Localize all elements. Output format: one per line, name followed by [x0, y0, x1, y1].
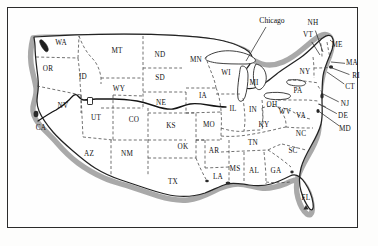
lake-erie — [264, 92, 290, 99]
state-label-or: OR — [43, 66, 53, 73]
state-label-nm: NM — [121, 151, 133, 158]
state-label-fl: FL — [302, 195, 311, 202]
state-callout-label-ma: MA — [346, 60, 358, 67]
state-callout-label-de: DE — [338, 113, 348, 120]
state-callout-label-md: MD — [339, 126, 351, 133]
state-label-wa: WA — [55, 40, 67, 47]
state-label-ok: OK — [178, 144, 189, 151]
state-label-al: AL — [249, 168, 259, 175]
state-label-tx: TX — [168, 179, 178, 186]
state-label-ga: GA — [271, 168, 282, 175]
state-label-wy: WY — [113, 86, 125, 93]
state-label-nd: ND — [155, 52, 166, 59]
state-label-ky: KY — [259, 122, 270, 129]
leader-line-chicago — [246, 27, 266, 61]
state-callout-label-me: ME — [331, 42, 342, 49]
state-label-wi: WI — [221, 70, 231, 77]
state-label-mt: MT — [111, 48, 122, 55]
state-callout-label-vt: VT — [303, 32, 313, 39]
state-label-nc: NC — [296, 131, 306, 138]
state-label-sc: SC — [288, 148, 297, 155]
state-label-mi: MI — [249, 80, 258, 87]
map-geometry — [0, 0, 378, 246]
state-label-pa: PA — [294, 88, 303, 95]
state-label-ca: CA — [36, 125, 46, 132]
national-outline — [31, 34, 334, 215]
state-label-mn: MN — [190, 57, 202, 64]
state-callout-label-ri: RI — [352, 73, 360, 80]
state-label-ks: KS — [166, 123, 176, 130]
state-label-va: VA — [296, 113, 306, 120]
lake-ontario — [287, 80, 306, 86]
state-label-sd: SD — [155, 75, 165, 82]
state-label-in: IN — [249, 107, 257, 114]
leader-line-nj — [321, 93, 339, 102]
state-label-wv: WV — [279, 109, 291, 116]
state-label-az: AZ — [84, 151, 94, 158]
state-label-mo: MO — [203, 122, 215, 129]
state-callout-label-ct: CT — [345, 84, 355, 91]
state-label-nv: NV — [58, 103, 69, 110]
state-label-id: ID — [79, 74, 87, 81]
state-label-co: CO — [129, 117, 139, 124]
state-label-il: IL — [229, 106, 236, 113]
city-label-chicago: Chicago — [259, 17, 284, 25]
leader-line-ct — [327, 72, 344, 84]
leader-line-ma — [331, 62, 345, 63]
state-label-ut: UT — [91, 115, 101, 122]
state-label-ar: AR — [209, 148, 219, 155]
lake-marker-great-salt-lake — [88, 98, 93, 105]
state-callout-label-nh: NH — [308, 20, 319, 27]
state-label-ne: NE — [156, 100, 166, 107]
state-label-ms: MS — [230, 166, 241, 173]
state-label-tn: TN — [248, 140, 258, 147]
state-label-ia: IA — [199, 93, 207, 100]
map-figure: Chicago WAORIDMTNDMNSDWYNEIAWIMINVUTCOKS… — [0, 0, 378, 246]
state-callout-label-nj: NJ — [341, 101, 349, 108]
state-label-ny: NY — [300, 69, 311, 76]
leader-line-ri — [332, 68, 349, 75]
state-label-oh: OH — [267, 102, 278, 109]
state-label-la: LA — [213, 174, 223, 181]
